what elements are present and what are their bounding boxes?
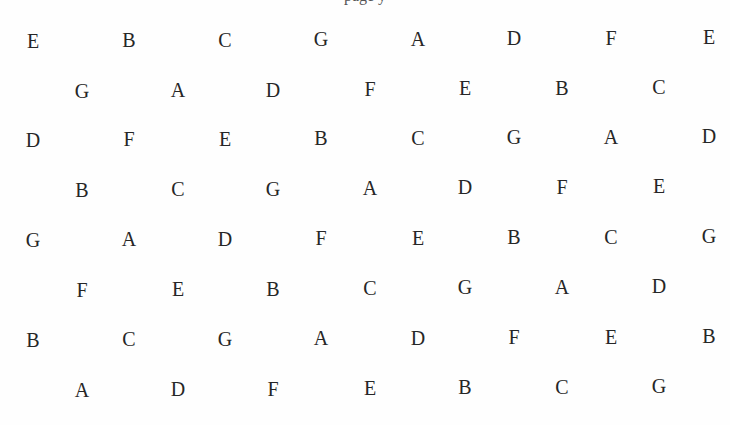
grid-letter: E [21,29,45,53]
grid-letter: F [502,325,526,349]
grid-letter: G [21,228,45,252]
grid-letter: E [358,376,382,400]
grid-letter: A [358,176,382,200]
grid-letter: C [406,126,430,150]
grid-letter: C [599,225,623,249]
grid-letter: E [599,325,623,349]
grid-letter: F [550,175,574,199]
grid-letter: A [117,227,141,251]
grid-letter: D [502,26,526,50]
grid-letter: F [309,226,333,250]
letter-row: EBCGADFE [0,29,730,53]
grid-letter: D [261,78,285,102]
letter-row: BCGADFEB [0,328,730,352]
grid-letter: C [213,28,237,52]
grid-letter: B [21,328,45,352]
grid-letter: A [70,378,94,402]
letter-row: GADFEBCG [0,228,730,252]
grid-letter: G [70,79,94,103]
grid-letter: D [21,128,45,152]
grid-letter: F [117,127,141,151]
letter-row: FEBCGAD [0,278,730,302]
grid-letter: F [358,77,382,101]
grid-letter: A [166,78,190,102]
grid-letter: G [213,327,237,351]
grid-letter: A [550,275,574,299]
letter-row: DFEBCGAD [0,128,730,152]
grid-letter: A [309,326,333,350]
grid-letter: G [647,374,671,398]
grid-letter: C [647,75,671,99]
grid-letter: E [406,226,430,250]
grid-letter: G [261,177,285,201]
grid-letter: D [406,326,430,350]
grid-letter: B [70,178,94,202]
grid-letter: E [213,127,237,151]
letter-row: GADFEBC [0,79,730,103]
grid-letter: A [406,27,430,51]
grid-letter: D [213,227,237,251]
grid-letter: C [166,177,190,201]
grid-letter: B [117,28,141,52]
grid-letter: G [309,27,333,51]
grid-letter: C [358,276,382,300]
letter-row: BCGADFE [0,178,730,202]
grid-letter: F [599,26,623,50]
grid-letter: E [647,174,671,198]
grid-letter: E [697,25,721,49]
grid-letter: G [502,125,526,149]
grid-letter: B [697,324,721,348]
grid-letter: G [453,275,477,299]
grid-letter: E [166,277,190,301]
grid-letter: B [261,277,285,301]
letter-row: ADFEBCG [0,378,730,402]
grid-letter: B [453,375,477,399]
grid-letter: D [647,274,671,298]
grid-letter: A [599,125,623,149]
document-page: page y EBCGADFEGADFEBCDFEBCGADBCGADFEGAD… [0,0,730,425]
grid-letter: D [697,124,721,148]
grid-letter: D [166,377,190,401]
grid-letter: C [117,327,141,351]
grid-letter: B [309,126,333,150]
grid-letter: E [453,76,477,100]
grid-letter: B [550,76,574,100]
grid-letter: F [261,377,285,401]
grid-letter: F [70,278,94,302]
grid-letter: G [697,224,721,248]
grid-letter: C [550,375,574,399]
grid-letter: D [453,175,477,199]
grid-letter: B [502,225,526,249]
letter-grid: EBCGADFEGADFEBCDFEBCGADBCGADFEGADFEBCGFE… [0,0,730,425]
